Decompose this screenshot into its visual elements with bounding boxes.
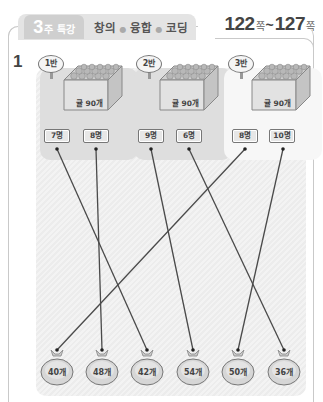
section-title: 창의●융합●코딩 — [94, 19, 188, 35]
page-suffix: 쪽 — [256, 18, 265, 33]
page-start: 122 — [224, 13, 254, 35]
frame-border — [215, 38, 314, 50]
count-box-1-2[interactable]: 8명 — [83, 129, 109, 143]
page-end: 127 — [275, 13, 305, 35]
count-box-1-1[interactable]: 7명 — [44, 129, 70, 143]
title-part: 창의 — [94, 21, 117, 35]
count-box-2-1[interactable]: 9명 — [138, 129, 164, 143]
question-number: 1 — [13, 52, 22, 72]
crate-label: 귤 90개 — [76, 97, 103, 108]
bag-label: 40개 — [38, 366, 76, 377]
bag-label: 36개 — [265, 366, 303, 377]
week-number: 3 — [33, 17, 43, 38]
bag-54[interactable]: 54개 — [174, 346, 212, 386]
title-part: 코딩 — [166, 21, 189, 35]
bag-label: 42개 — [128, 366, 166, 377]
bag-36[interactable]: 36개 — [265, 346, 303, 386]
section-header: 3 주 특강 창의●융합●코딩 — [18, 14, 196, 40]
tilde: ~ — [266, 17, 274, 33]
page-range: 122 쪽 ~ 127 쪽 — [224, 13, 315, 35]
bag-48[interactable]: 48개 — [83, 346, 121, 386]
bag-label: 50개 — [219, 366, 257, 377]
title-part: 융합 — [130, 21, 153, 35]
bag-label: 54개 — [174, 366, 212, 377]
week-label: 주 특강 — [44, 21, 74, 36]
count-box-3-1[interactable]: 8명 — [232, 129, 258, 143]
count-box-3-2[interactable]: 10명 — [269, 129, 295, 143]
page-suffix: 쪽 — [306, 18, 315, 33]
count-box-2-2[interactable]: 6명 — [176, 129, 202, 143]
bag-42[interactable]: 42개 — [128, 346, 166, 386]
bag-50[interactable]: 50개 — [219, 346, 257, 386]
bag-label: 48개 — [83, 366, 121, 377]
crate-label: 귤 90개 — [172, 97, 199, 108]
crate-label: 귤 90개 — [264, 97, 291, 108]
bag-40[interactable]: 40개 — [38, 346, 76, 386]
week-badge: 3 주 특강 — [24, 15, 84, 39]
